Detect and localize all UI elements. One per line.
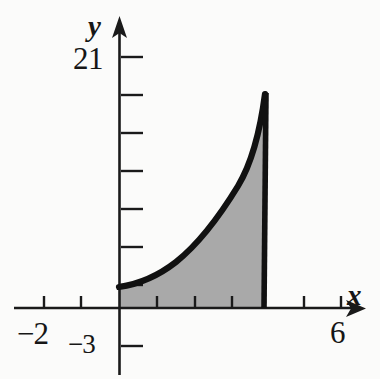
right-boundary-line <box>264 93 266 308</box>
x-tick-label-6: 6 <box>330 317 346 348</box>
x-tick-label-neg2: −2 <box>17 318 48 349</box>
x-axis-label: x <box>347 281 362 310</box>
graph-figure: y x 21 6 −2 −3 <box>0 0 380 379</box>
y-axis-ticks <box>121 57 143 285</box>
shaded-area-under-curve <box>119 94 265 308</box>
y-tick-label-21: 21 <box>73 43 103 74</box>
y-axis-label: y <box>88 12 101 41</box>
y-tick-label-neg3: −3 <box>68 331 95 358</box>
plot-canvas <box>0 0 380 379</box>
